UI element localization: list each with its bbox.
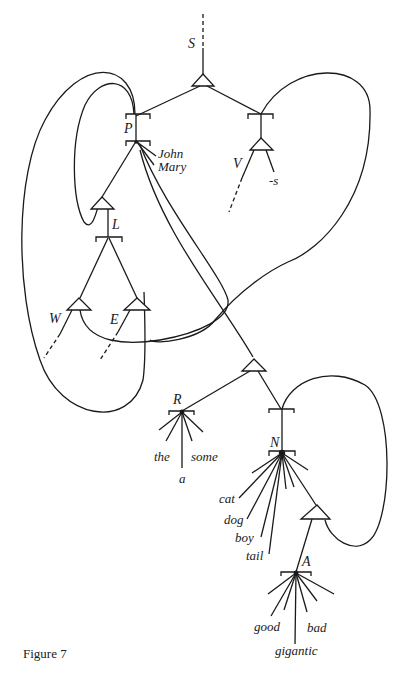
r-fan-1 <box>159 412 182 430</box>
edge-s-p <box>136 86 200 116</box>
leaf-the: the <box>154 449 170 464</box>
edge-a-bad <box>296 573 317 601</box>
v-and-node-icon <box>250 138 273 150</box>
node-label-w: W <box>49 311 62 326</box>
w-input-dashed <box>44 334 60 358</box>
np-and-node-icon <box>242 359 266 371</box>
node-label-p: P <box>123 121 133 136</box>
leaf-gigantic: gigantic <box>275 643 318 658</box>
e-input-line <box>118 310 130 332</box>
edge-n-adj <box>282 453 316 505</box>
edge-n-tail <box>269 453 282 554</box>
edge-n-cat <box>239 453 282 498</box>
w-and-node-icon <box>67 298 91 310</box>
e-input-dashed <box>100 332 118 360</box>
leaf-some: some <box>191 449 218 464</box>
leaf-cat: cat <box>219 491 235 506</box>
e-and-node-icon <box>124 298 150 310</box>
v-input-dashed <box>229 178 242 212</box>
leaf-a: a <box>179 471 186 486</box>
leaf-s-suffix: -s <box>269 173 278 188</box>
l-and-node-icon <box>91 197 114 209</box>
leaf-dog: dog <box>224 512 244 527</box>
node-label-e: E <box>109 312 119 327</box>
s-and-node-icon <box>192 74 214 86</box>
node-label-v: V <box>233 156 243 171</box>
w-input-line <box>60 310 72 334</box>
leaf-mary: Mary <box>157 159 186 174</box>
node-label-n: N <box>269 435 280 450</box>
edge-a-gigantic <box>295 573 296 644</box>
edge-np-r <box>182 371 250 411</box>
leaf-bad: bad <box>307 620 327 635</box>
leaf-boy: boy <box>235 530 254 545</box>
a-fan-1 <box>268 573 296 594</box>
edge-v-s-suffix <box>266 150 274 172</box>
edge-l-e <box>109 238 137 298</box>
edge-l-w <box>80 238 108 298</box>
v-input-line <box>242 150 254 178</box>
leaf-good: good <box>254 619 281 634</box>
node-label-r: R <box>172 392 182 407</box>
edge-p-l <box>102 143 135 197</box>
leaf-tail: tail <box>246 548 264 563</box>
node-label-a: A <box>301 554 311 569</box>
node-label-s: S <box>188 36 195 51</box>
network-diagram: S P John Mary L W E V -s <box>0 0 403 678</box>
edge-np-n <box>258 371 281 409</box>
figure-caption: Figure 7 <box>23 646 67 661</box>
adj-and-node-icon <box>301 505 330 519</box>
edge-s-v <box>207 86 261 114</box>
w-to-p-cross-loop <box>80 145 228 342</box>
edge-n-dog <box>247 453 282 519</box>
node-label-l: L <box>111 217 120 232</box>
edge-r-the <box>166 412 182 441</box>
n-adjective-loop <box>282 376 387 546</box>
